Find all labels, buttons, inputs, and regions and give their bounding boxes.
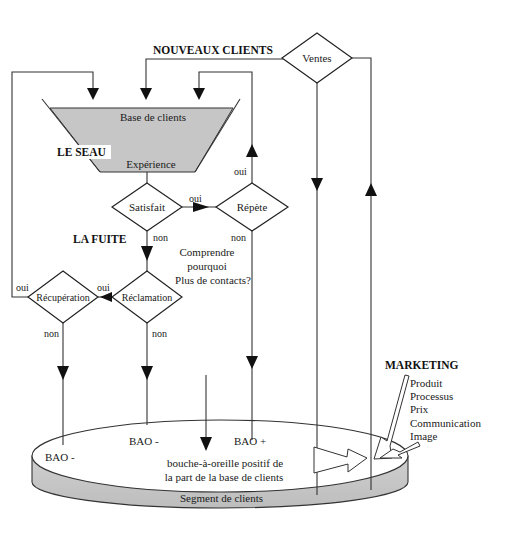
arrow-down-icon — [141, 366, 153, 380]
marketing-item: Prix — [410, 403, 429, 415]
wom-neg-label-2: BAO - — [129, 435, 159, 447]
marketing-label: MARKETING — [385, 359, 459, 371]
complaint-yes-label: oui — [97, 282, 110, 293]
bucket-funnel: Base de clients LE SEAU Expérience — [42, 99, 240, 172]
recovery-no-label: non — [44, 328, 59, 339]
wom-pos-label: BAO + — [234, 435, 266, 447]
segment-label: Segment de clients — [180, 492, 263, 504]
funnel-bottom-label: Expérience — [126, 158, 176, 170]
repeat-no-label: non — [231, 232, 246, 243]
arrow-left-icon — [100, 292, 112, 302]
funnel-top-label: Base de clients — [120, 111, 186, 123]
arrow-down-icon — [141, 246, 153, 261]
decision-complaint-label: Réclamation — [122, 292, 173, 303]
wom-neg-label-1: BAO - — [45, 451, 75, 463]
decision-recovery-label: Récupération — [36, 292, 89, 303]
note-line-2: pourquoi — [187, 260, 227, 272]
recovery-yes-label: oui — [16, 282, 29, 293]
wom-text-line-1: bouche-à-oreille positif de — [167, 457, 283, 469]
arrow-down-icon — [193, 88, 205, 100]
satisfied-yes-label: oui — [189, 193, 202, 204]
note-line-1: Comprendre — [180, 246, 235, 258]
arrow-down-icon — [57, 366, 69, 380]
new-clients-line — [146, 59, 283, 90]
marketing-item: Communication — [410, 417, 481, 429]
diagram-canvas: Segment de clients Base de clients LE SE… — [0, 0, 519, 538]
marketing-item: Processus — [410, 390, 453, 402]
arrow-down-icon — [311, 178, 323, 191]
new-clients-label: NOUVEAUX CLIENTS — [153, 44, 273, 56]
complaint-no-label: non — [152, 328, 167, 339]
decision-repeat-label: Répète — [237, 201, 268, 213]
marketing-item: Image — [410, 430, 438, 442]
bucket-label: LE SEAU — [57, 146, 107, 158]
arrow-down-icon — [246, 356, 258, 369]
arrow-down-icon — [140, 88, 152, 100]
wom-text-line-2: la part de la base de clients — [165, 471, 284, 483]
leak-label: LA FUITE — [73, 233, 127, 245]
recovery-loop-line — [12, 72, 93, 297]
arrow-up-icon — [246, 144, 258, 157]
decision-sales-label: Ventes — [302, 52, 331, 64]
marketing-return-line — [352, 58, 371, 490]
arrow-up-icon — [365, 183, 377, 196]
marketing-item: Produit — [410, 377, 442, 389]
repeat-yes-label: oui — [234, 166, 247, 177]
arrow-down-icon — [87, 88, 99, 100]
satisfied-no-label: non — [153, 232, 168, 243]
note-line-3: Plus de contacts? — [175, 274, 251, 286]
decision-satisfied-label: Satisfait — [129, 201, 165, 213]
